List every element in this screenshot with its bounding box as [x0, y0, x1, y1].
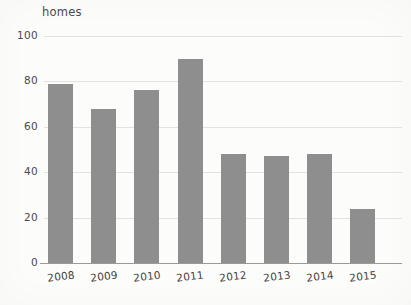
bar-chart: homes 100806040200 200820092010201120122…	[0, 0, 411, 305]
x-axis-tick-label: 2008	[39, 267, 82, 284]
x-axis-tick-label: 2009	[82, 267, 125, 284]
x-axis-tick-label: 2015	[341, 267, 384, 284]
bar	[307, 154, 332, 263]
y-axis-tick-label: 0	[4, 256, 38, 268]
x-axis-baseline	[40, 263, 402, 264]
y-axis-tick-label: 80	[4, 74, 38, 86]
bar	[91, 109, 116, 263]
y-axis-tick-label: 60	[4, 120, 38, 132]
x-axis-tick-label: 2011	[169, 267, 212, 284]
bar	[221, 154, 246, 263]
bar	[48, 84, 73, 263]
bar	[350, 209, 375, 263]
bar	[264, 156, 289, 263]
y-axis-tick-label: 40	[4, 165, 38, 177]
plot-area: 100806040200 200820092010201120122013201…	[0, 0, 411, 305]
x-axis-tick-label: 2012	[212, 267, 255, 284]
x-axis-tick-label: 2013	[255, 267, 298, 284]
bar	[178, 59, 203, 263]
y-axis-tick-label: 20	[4, 211, 38, 223]
y-axis-tick-label: 100	[4, 29, 38, 41]
bar	[134, 90, 159, 263]
x-axis-tick-label: 2010	[125, 267, 168, 284]
gridline	[44, 36, 402, 37]
x-axis-tick-label: 2014	[298, 267, 341, 284]
gridline	[44, 81, 402, 82]
